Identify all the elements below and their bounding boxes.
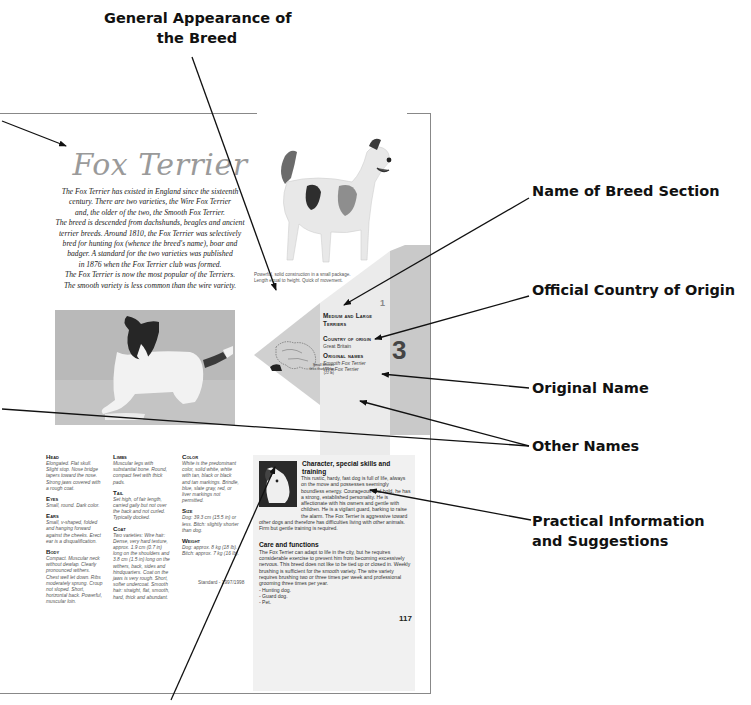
arrow-practical-info [370, 490, 531, 520]
arrow-general-appearance [192, 57, 276, 290]
callout-line: General Appearance of [104, 8, 290, 28]
callout-general-appearance: General Appearance of the Breed [104, 8, 290, 48]
callout-leader-lines [0, 0, 751, 705]
callout-line: Practical Information [532, 511, 705, 531]
arrow-other-names-2 [2, 409, 529, 446]
arrow-other-names-1 [360, 401, 529, 446]
arrow-bottom-callout [171, 467, 275, 700]
arrow-breed-title [2, 121, 66, 146]
callout-breed-section: Name of Breed Section [532, 181, 720, 201]
callout-line: the Breed [104, 28, 290, 48]
callout-practical-info: Practical Information and Suggestions [532, 511, 705, 551]
callout-original-name: Original Name [532, 378, 649, 398]
arrow-original-name [382, 374, 529, 388]
callout-line: and Suggestions [532, 531, 705, 551]
callout-other-names: Other Names [532, 436, 639, 456]
arrow-country-of-origin [375, 296, 529, 339]
callout-country-of-origin: Official Country of Origin [532, 280, 735, 300]
arrow-breed-section [344, 198, 529, 305]
